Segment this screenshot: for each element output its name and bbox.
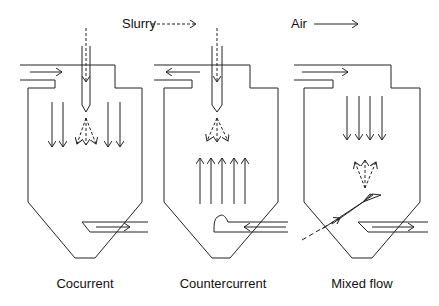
slurry-legend-label: Slurry bbox=[122, 16, 156, 31]
cocurrent-dryer bbox=[20, 28, 148, 258]
countercurrent-caption: Countercurrent bbox=[153, 276, 293, 291]
air-legend-label: Air bbox=[291, 16, 307, 31]
spray-dryer-diagram bbox=[0, 0, 439, 306]
cocurrent-caption: Cocurrent bbox=[15, 276, 155, 291]
countercurrent-dryer bbox=[154, 28, 288, 258]
mixed-flow-caption: Mixed flow bbox=[292, 276, 432, 291]
mixed-flow-dryer bbox=[294, 65, 428, 258]
